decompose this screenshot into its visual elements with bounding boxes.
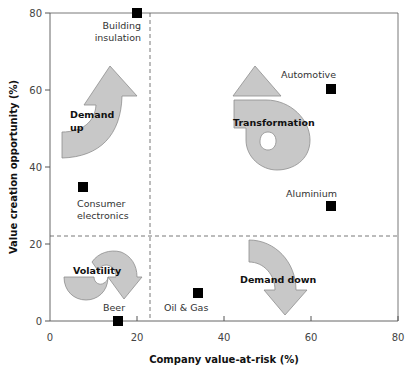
demand-up-arrow: Demand up [62, 66, 137, 158]
volatility-label: Volatility [73, 265, 122, 276]
x-tick-60: 60 [305, 332, 318, 343]
demand-down-label: Demand down [240, 274, 317, 285]
point-automotive[interactable] [326, 84, 336, 94]
x-tick-40: 40 [218, 332, 231, 343]
x-axis-title: Company value-at-risk (%) [149, 354, 299, 365]
scatter-chart: 80 60 40 20 0 Value creation opportunity… [0, 0, 410, 374]
demand-up-label-line2: up [70, 122, 84, 133]
label-building-insulation-1: Building [102, 20, 141, 31]
point-consumer-electronics[interactable] [78, 182, 88, 192]
y-tick-40: 40 [29, 162, 42, 173]
x-tick-20: 20 [131, 332, 144, 343]
y-axis-title: Value creation opportunity (%) [8, 80, 19, 254]
label-consumer-electronics-2: electronics [77, 210, 129, 221]
y-tick-60: 60 [29, 85, 42, 96]
transformation-label: Transformation [233, 117, 315, 128]
point-building-insulation[interactable] [132, 8, 142, 18]
label-automotive: Automotive [281, 69, 336, 80]
y-tick-20: 20 [29, 239, 42, 250]
y-axis: 80 60 40 20 0 Value creation opportunity… [8, 8, 50, 327]
point-beer[interactable] [113, 316, 123, 326]
demand-up-label-line1: Demand [70, 109, 114, 120]
label-oil-gas: Oil & Gas [164, 302, 208, 313]
volatility-arrow: Volatility [64, 251, 142, 300]
y-tick-0: 0 [36, 316, 42, 327]
x-tick-80: 80 [392, 332, 405, 343]
transformation-arrow: Transformation [233, 66, 315, 170]
x-tick-0: 0 [47, 332, 53, 343]
y-tick-80: 80 [29, 8, 42, 19]
demand-down-arrow: Demand down [240, 240, 317, 315]
label-aluminium: Aluminium [286, 188, 337, 199]
point-oil-gas[interactable] [193, 288, 203, 298]
label-beer: Beer [103, 302, 125, 313]
label-building-insulation-2: insulation [95, 32, 141, 43]
x-axis: 0 20 40 60 80 Company value-at-risk (%) [47, 316, 405, 365]
point-aluminium[interactable] [326, 201, 336, 211]
label-consumer-electronics-1: Consumer [77, 198, 126, 209]
